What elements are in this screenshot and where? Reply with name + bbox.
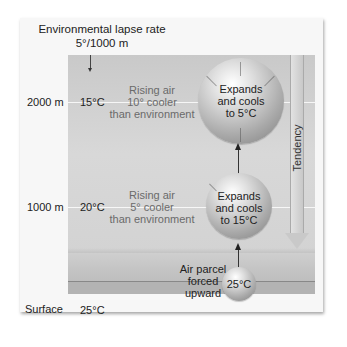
- rising-air-note-2000-l3: than environment: [107, 108, 197, 120]
- parcel-1000-l1: Expands: [206, 190, 272, 202]
- tendency-label-wrap: Tendency: [290, 118, 304, 178]
- rise-arrow-lower: [238, 248, 239, 268]
- env-temp-2000: 15°C: [80, 96, 105, 108]
- arrow-down-icon: [285, 233, 309, 249]
- parcel-1000-l3: to 15°C: [206, 214, 272, 226]
- arrow-up-icon: [235, 243, 241, 250]
- parcel-1000-l2: and cools: [206, 202, 272, 214]
- lapse-rate-title: Environmental lapse rate: [32, 23, 172, 35]
- altitude-label-1000: 1000 m: [27, 201, 64, 213]
- air-parcel-1000: Expands and cools to 15°C: [206, 173, 272, 239]
- rising-air-note-1000-l3: than environment: [107, 213, 197, 225]
- tendency-label: Tendency: [291, 124, 303, 171]
- altitude-label-surface: Surface: [25, 303, 63, 315]
- expansion-ray: [240, 62, 241, 76]
- env-temp-1000: 20°C: [80, 201, 105, 213]
- rising-air-note-1000-l1: Rising air: [107, 189, 197, 201]
- expansion-ray: [240, 128, 241, 142]
- air-parcel-surface: 25°C: [222, 267, 256, 301]
- rising-air-note-2000-l1: Rising air: [107, 84, 197, 96]
- lapse-rate-value: 5°/1000 m: [32, 37, 172, 49]
- rise-arrow-upper: [238, 148, 239, 174]
- rising-air-note-2000-l2: 10° cooler: [107, 96, 197, 108]
- lapse-rate-pointer: [90, 55, 91, 69]
- parcel-surface-temp: 25°C: [222, 278, 256, 290]
- env-temp-surface: 25°C: [80, 304, 105, 316]
- altitude-label-2000: 2000 m: [27, 96, 64, 108]
- rising-air-note-1000-l2: 5° cooler: [107, 201, 197, 213]
- parcel-2000-l2: and cools: [198, 95, 284, 107]
- arrow-up-icon: [235, 143, 241, 150]
- parcel-2000-l1: Expands: [198, 83, 284, 95]
- parcel-2000-l3: to 5°C: [198, 107, 284, 119]
- air-parcel-2000: Expands and cools to 5°C: [198, 58, 284, 144]
- arrow-down-icon: [88, 68, 92, 72]
